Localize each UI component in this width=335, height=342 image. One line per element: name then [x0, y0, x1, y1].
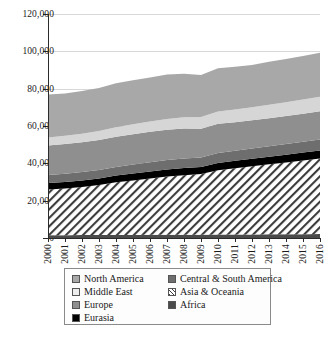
x-tick-mark — [320, 238, 321, 242]
legend-item-north-america[interactable]: North America — [72, 273, 164, 285]
x-tick-label: 2000 — [43, 244, 53, 264]
legend-swatch-north-america-icon — [72, 275, 80, 283]
stacked-area-chart: 020,00040,00060,00080,000100,000120,000 … — [0, 0, 335, 342]
legend-label: Africa — [180, 299, 206, 311]
x-tick-label: 2015 — [298, 244, 308, 264]
x-tick-label: 2004 — [111, 244, 121, 264]
x-tick-label: 2003 — [94, 244, 104, 264]
x-tick-label: 2014 — [281, 244, 291, 264]
legend-item-europe[interactable]: Europe — [72, 299, 164, 311]
x-axis-line — [48, 238, 320, 239]
x-tick-label: 2010 — [213, 244, 223, 264]
x-tick-label: 2007 — [162, 244, 172, 264]
legend-swatch-central-south-america-icon — [168, 275, 176, 283]
legend-swatch-africa-icon — [168, 301, 176, 309]
x-tick-label: 2016 — [315, 244, 325, 264]
legend-label: Middle East — [84, 286, 133, 298]
x-tick-label: 2006 — [145, 244, 155, 264]
legend-item-eurasia[interactable]: Eurasia — [72, 312, 164, 324]
legend-label: Eurasia — [84, 312, 114, 324]
x-tick-label: 2013 — [264, 244, 274, 264]
x-tick-label: 2005 — [128, 244, 138, 264]
x-tick-label: 2002 — [77, 244, 87, 264]
legend-swatch-europe-icon — [72, 301, 80, 309]
stacked-area-series-layer — [48, 14, 320, 238]
legend-swatch-asia-oceania-icon — [168, 288, 176, 296]
legend-item-asia-oceania[interactable]: Asia & Oceania — [168, 286, 282, 298]
legend-label: Europe — [84, 299, 113, 311]
x-tick-label: 2012 — [247, 244, 257, 264]
legend-item-central-south-america[interactable]: Central & South America — [168, 273, 282, 285]
legend-swatch-middle-east-icon — [72, 288, 80, 296]
chart-legend: North AmericaCentral & South AmericaMidd… — [64, 268, 271, 325]
x-tick-label: 2001 — [60, 244, 70, 264]
legend-label: North America — [84, 273, 144, 285]
legend-swatch-eurasia-icon — [72, 314, 80, 322]
legend-label: Asia & Oceania — [180, 286, 244, 298]
legend-item-africa[interactable]: Africa — [168, 299, 282, 311]
x-tick-label: 2008 — [179, 244, 189, 264]
y-axis-line — [48, 14, 49, 239]
legend-item-middle-east[interactable]: Middle East — [72, 286, 164, 298]
x-tick-label: 2011 — [230, 244, 240, 263]
x-tick-label: 2009 — [196, 244, 206, 264]
legend-label: Central & South America — [180, 273, 282, 285]
